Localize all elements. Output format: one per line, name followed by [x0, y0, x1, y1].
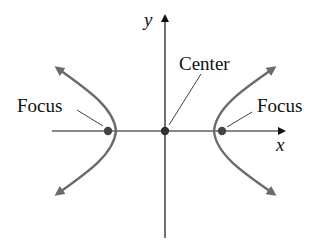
left-branch-upper — [57, 68, 116, 131]
focus-right-dot — [218, 127, 226, 135]
center-dot — [161, 127, 169, 135]
center-label: Center — [179, 53, 230, 74]
right-branch-lower — [214, 131, 274, 194]
focus-left-label: Focus — [17, 95, 62, 116]
focus-left-leader — [77, 110, 103, 126]
focus-right-leader — [227, 112, 252, 127]
left-branch-lower — [57, 131, 116, 194]
focus-left-dot — [104, 127, 112, 135]
focus-right-label: Focus — [257, 95, 302, 116]
x-axis-label: x — [275, 134, 285, 155]
center-leader — [169, 74, 201, 125]
hyperbola-diagram: y x Center Focus Focus — [0, 0, 327, 247]
y-axis-label: y — [142, 9, 153, 30]
